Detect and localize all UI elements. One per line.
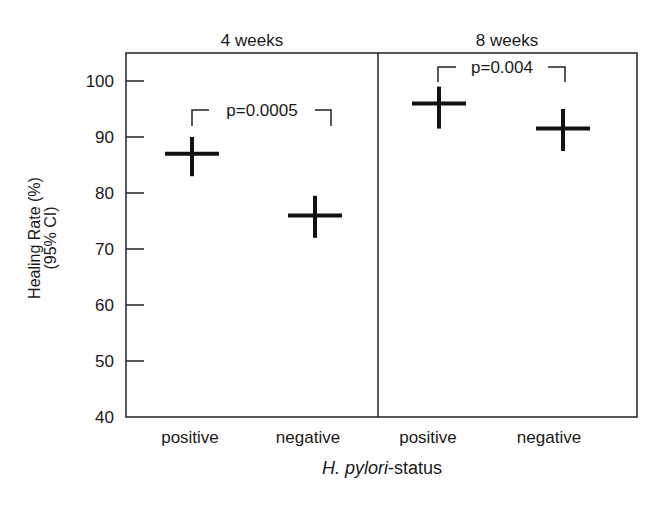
- ci-marker: [165, 137, 219, 176]
- y-axis-label-line1: Healing Rate (%): [26, 177, 43, 299]
- y-tick-label: 90: [95, 128, 114, 147]
- p-value-bracket: p=0.004: [438, 58, 565, 82]
- x-tick-4wk-negative: negative: [276, 428, 340, 447]
- x-tick-4wk-positive: positive: [161, 428, 219, 447]
- y-tick-label: 60: [95, 296, 114, 315]
- y-axis-ticks: 405060708090100: [86, 72, 144, 427]
- p-value-label: p=0.004: [471, 58, 533, 77]
- panel-title-4-weeks: 4 weeks: [221, 31, 283, 50]
- x-axis-label-rest: -status: [388, 458, 442, 478]
- y-tick-label: 70: [95, 240, 114, 259]
- plot-frame: [126, 53, 637, 417]
- ci-marker: [536, 109, 590, 151]
- y-axis-label: Healing Rate (%) (95% CI): [26, 177, 59, 299]
- x-axis-label: H. pylori-status: [322, 458, 442, 478]
- y-tick-label: 80: [95, 184, 114, 203]
- y-tick-label: 50: [95, 352, 114, 371]
- x-tick-8wk-positive: positive: [399, 428, 457, 447]
- y-tick-label: 100: [86, 72, 114, 91]
- y-tick-label: 40: [95, 408, 114, 427]
- ci-marker: [412, 87, 466, 129]
- p-value-bracket: p=0.0005: [192, 101, 331, 126]
- ci-marker: [288, 196, 342, 238]
- healing-rate-chart: 4 weeks 8 weeks 405060708090100 Healing …: [0, 0, 664, 505]
- x-tick-8wk-negative: negative: [517, 428, 581, 447]
- x-axis-label-italic: H. pylori: [322, 458, 389, 478]
- y-axis-label-line2: (95% CI): [42, 206, 59, 269]
- p-value-label: p=0.0005: [226, 101, 297, 120]
- panel-title-8-weeks: 8 weeks: [476, 31, 538, 50]
